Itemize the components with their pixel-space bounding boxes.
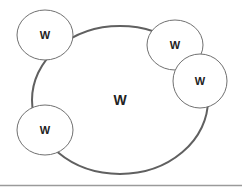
node-right: W bbox=[173, 54, 227, 108]
central-label: W bbox=[113, 92, 127, 108]
node-label: W bbox=[170, 39, 181, 51]
node-label: W bbox=[40, 29, 51, 41]
node-top-left: W bbox=[17, 10, 73, 60]
node-label: W bbox=[40, 124, 51, 136]
diagram-canvas: W W W W W bbox=[0, 0, 242, 187]
node-label: W bbox=[195, 75, 206, 87]
node-bottom-left: W bbox=[17, 105, 73, 155]
